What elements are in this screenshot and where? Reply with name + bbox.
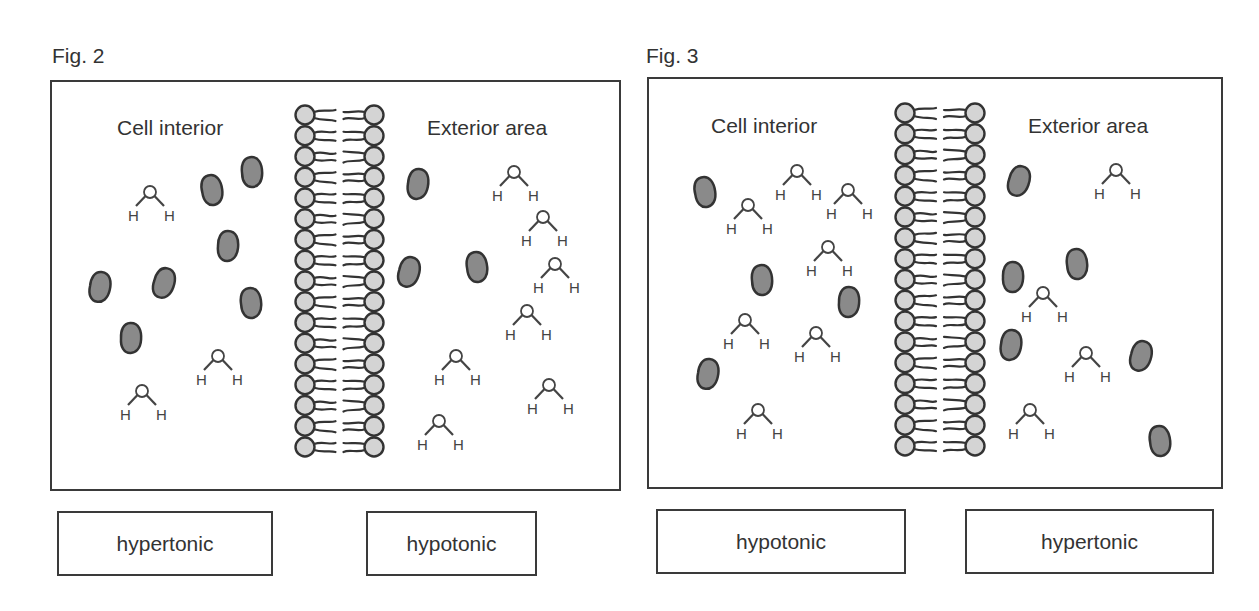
- phospholipid-head-icon: [966, 228, 985, 247]
- solute-particle-icon: [218, 231, 239, 261]
- phospholipid-head-icon: [296, 396, 315, 415]
- svg-text:H: H: [806, 262, 817, 279]
- phospholipid-head-icon: [966, 145, 985, 164]
- phospholipid-head-icon: [896, 353, 915, 372]
- phospholipid-head-icon: [296, 126, 315, 145]
- svg-text:H: H: [505, 326, 516, 343]
- water-molecule-icon: HH: [726, 199, 773, 237]
- svg-text:H: H: [563, 400, 574, 417]
- phospholipid-head-icon: [296, 189, 315, 208]
- solute-particle-icon: [750, 264, 774, 297]
- phospholipid-head-icon: [966, 124, 985, 143]
- phospholipid-head-icon: [296, 251, 315, 270]
- svg-text:H: H: [830, 348, 841, 365]
- water-molecule-icon: HH: [1008, 404, 1055, 442]
- figure-2-graphics: HHHHHHHHHHHHHHHHHHHH: [88, 106, 580, 457]
- phospholipid-head-icon: [966, 291, 985, 310]
- phospholipid-head-icon: [966, 312, 985, 331]
- svg-text:H: H: [762, 220, 773, 237]
- water-molecule-icon: HH: [196, 350, 243, 388]
- phospholipid-head-icon: [365, 251, 384, 270]
- phospholipid-head-icon: [365, 106, 384, 125]
- solute-particle-icon: [407, 168, 429, 199]
- svg-text:H: H: [492, 187, 503, 204]
- svg-text:H: H: [726, 220, 737, 237]
- phospholipid-head-icon: [296, 106, 315, 125]
- phospholipid-head-icon: [966, 104, 985, 123]
- phospholipid-head-icon: [296, 438, 315, 457]
- svg-text:H: H: [434, 371, 445, 388]
- phospholipid-head-icon: [365, 209, 384, 228]
- phospholipid-bilayer: [296, 106, 384, 457]
- phospholipid-head-icon: [296, 334, 315, 353]
- svg-text:H: H: [1130, 185, 1141, 202]
- svg-text:H: H: [470, 371, 481, 388]
- svg-text:H: H: [196, 371, 207, 388]
- solute-particle-icon: [198, 173, 225, 207]
- water-molecule-icon: HH: [417, 415, 464, 453]
- phospholipid-head-icon: [365, 272, 384, 291]
- water-molecule-icon: HH: [527, 379, 574, 417]
- svg-text:H: H: [1044, 425, 1055, 442]
- svg-text:H: H: [232, 371, 243, 388]
- phospholipid-head-icon: [966, 187, 985, 206]
- svg-text:H: H: [1057, 308, 1068, 325]
- phospholipid-head-icon: [966, 353, 985, 372]
- water-molecule-icon: HH: [775, 165, 822, 203]
- svg-text:H: H: [811, 186, 822, 203]
- water-molecule-icon: HH: [806, 241, 853, 279]
- phospholipid-head-icon: [896, 291, 915, 310]
- phospholipid-head-icon: [365, 355, 384, 374]
- water-molecule-icon: HH: [128, 186, 175, 224]
- svg-text:H: H: [1100, 368, 1111, 385]
- phospholipid-head-icon: [896, 187, 915, 206]
- svg-text:H: H: [533, 279, 544, 296]
- svg-text:H: H: [1064, 368, 1075, 385]
- phospholipid-bilayer: [896, 104, 985, 456]
- solute-particle-icon: [88, 271, 111, 303]
- phospholipid-head-icon: [896, 166, 915, 185]
- solute-particle-icon: [1128, 339, 1154, 372]
- diagram-drawing-layer: HHHHHHHHHHHHHHHHHHHHHHHHHHHHHHHHHHHHHHHH…: [0, 0, 1259, 611]
- water-molecule-icon: HH: [1021, 287, 1068, 325]
- water-molecule-icon: HH: [1064, 347, 1111, 385]
- phospholipid-head-icon: [966, 270, 985, 289]
- water-molecule-icon: HH: [521, 211, 568, 249]
- phospholipid-head-icon: [896, 332, 915, 351]
- water-molecule-icon: HH: [533, 258, 580, 296]
- water-molecule-icon: HH: [505, 305, 552, 343]
- phospholipid-head-icon: [365, 168, 384, 187]
- phospholipid-head-icon: [365, 375, 384, 394]
- svg-text:H: H: [528, 187, 539, 204]
- solute-particle-icon: [839, 287, 860, 317]
- svg-text:H: H: [1021, 308, 1032, 325]
- phospholipid-head-icon: [296, 147, 315, 166]
- solute-particle-icon: [1006, 164, 1033, 198]
- svg-text:H: H: [775, 186, 786, 203]
- phospholipid-head-icon: [365, 292, 384, 311]
- phospholipid-head-icon: [896, 395, 915, 414]
- solute-particle-icon: [238, 286, 263, 319]
- phospholipid-head-icon: [365, 313, 384, 332]
- svg-text:H: H: [736, 425, 747, 442]
- water-molecule-icon: HH: [826, 184, 873, 222]
- svg-text:H: H: [453, 436, 464, 453]
- phospholipid-head-icon: [966, 374, 985, 393]
- phospholipid-head-icon: [365, 417, 384, 436]
- phospholipid-head-icon: [296, 168, 315, 187]
- svg-text:H: H: [1094, 185, 1105, 202]
- svg-text:H: H: [417, 436, 428, 453]
- water-molecule-icon: HH: [794, 327, 841, 365]
- phospholipid-head-icon: [966, 166, 985, 185]
- phospholipid-head-icon: [966, 437, 985, 456]
- water-molecule-icon: HH: [120, 385, 167, 423]
- svg-text:H: H: [794, 348, 805, 365]
- phospholipid-head-icon: [296, 355, 315, 374]
- phospholipid-head-icon: [896, 145, 915, 164]
- solute-particle-icon: [151, 266, 178, 300]
- svg-text:H: H: [527, 400, 538, 417]
- svg-text:H: H: [557, 232, 568, 249]
- svg-text:H: H: [128, 207, 139, 224]
- phospholipid-head-icon: [896, 124, 915, 143]
- solute-particle-icon: [120, 322, 142, 353]
